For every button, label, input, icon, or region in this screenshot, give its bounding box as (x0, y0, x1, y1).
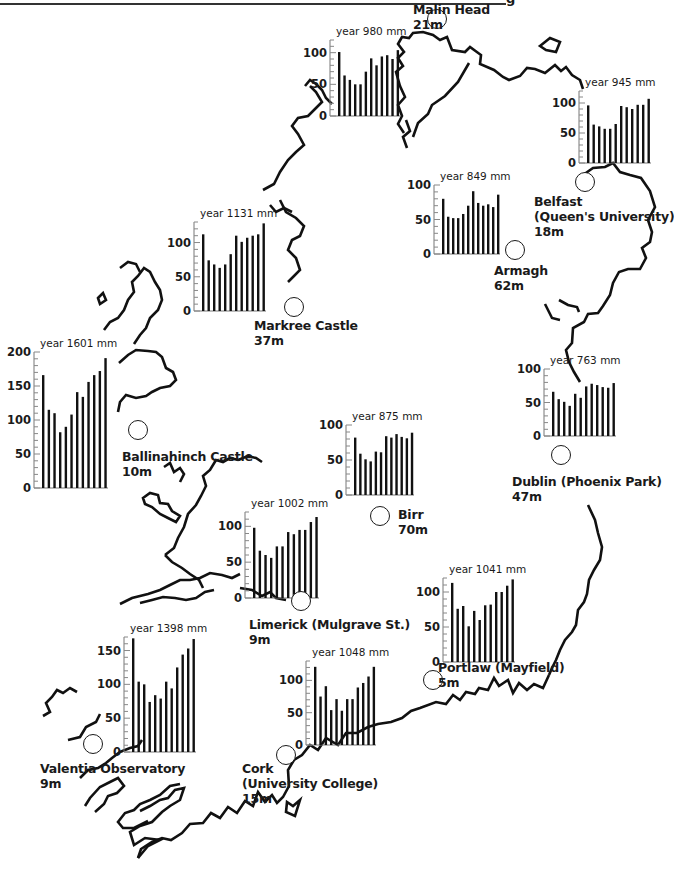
station-location-marker (284, 297, 304, 317)
station-label: Cork(University College)15m (242, 761, 378, 806)
coastline-segment (143, 493, 180, 522)
month-bar-O (401, 437, 403, 495)
station-elevation: 5m (438, 675, 564, 690)
rainfall-bar-chart: 050100year 945 mm (579, 91, 651, 163)
station-elevation: 18m (534, 224, 674, 239)
y-tick-label: 50 (311, 77, 327, 91)
month-bar-M (563, 402, 565, 436)
coastline-segment (403, 120, 410, 148)
month-bar-J (230, 254, 232, 311)
month-bar-D (104, 358, 106, 488)
month-bar-J (341, 711, 343, 745)
month-bar-A (149, 702, 151, 752)
station-label: Malin Head21m (413, 2, 490, 32)
month-bar-N (187, 649, 189, 753)
coastline-segment (118, 350, 176, 412)
coastline-segment (540, 38, 560, 52)
month-bar-J (615, 124, 617, 163)
station-elevation: 9m (40, 776, 185, 791)
month-bar-D (648, 99, 650, 163)
y-tick-label: 100 (552, 96, 576, 110)
month-bar-M (574, 394, 576, 436)
month-bar-J (253, 528, 255, 598)
station-label: Dublin (Phoenix Park)47m (512, 474, 662, 504)
month-bar-J (314, 667, 316, 745)
month-bar-J (365, 72, 367, 116)
month-bar-J (76, 392, 78, 488)
month-bar-O (602, 387, 604, 436)
y-tick-label: 100 (7, 413, 31, 427)
month-bar-N (492, 207, 494, 254)
coastline-segment (280, 200, 304, 282)
month-bar-S (298, 530, 300, 598)
month-bar-O (386, 55, 388, 116)
month-bar-F (138, 682, 140, 752)
station-label: Markree Castle37m (254, 318, 358, 348)
month-bar-S (596, 385, 598, 436)
rainfall-bar-chart: 050100year 1048 mm (306, 661, 376, 745)
month-bar-A (490, 605, 492, 662)
y-tick-label: 50 (105, 711, 121, 725)
month-bar-J (585, 386, 587, 436)
month-bar-A (219, 268, 221, 311)
month-bar-A (591, 384, 593, 436)
month-bar-D (411, 433, 413, 495)
station-elevation: 62m (494, 278, 548, 293)
y-tick-label: 50 (560, 126, 576, 140)
month-bar-J (451, 583, 453, 662)
coastline-segment (263, 86, 322, 190)
station-name: Valentia Observatory (40, 761, 185, 776)
month-bar-J (338, 52, 340, 116)
coastline-segment (559, 300, 579, 312)
month-bar-J (287, 532, 289, 598)
chart-title-annual-total: year 1041 mm (449, 563, 526, 575)
month-bar-O (501, 592, 503, 662)
rainfall-bar-chart: 050100year 980 mm (330, 40, 400, 116)
month-bar-J (484, 605, 486, 662)
month-bar-J (472, 191, 474, 254)
station-elevation: 70m (398, 522, 428, 537)
month-bar-A (351, 699, 353, 745)
month-bar-N (391, 59, 393, 116)
month-bar-A (477, 203, 479, 254)
station-name: (Queen's University) (534, 209, 674, 224)
month-bar-A (59, 432, 61, 488)
month-bar-D (193, 639, 195, 752)
month-bar-S (395, 434, 397, 495)
month-bar-J (552, 392, 554, 436)
month-bar-S (357, 687, 359, 745)
chart-title-annual-total: year 763 mm (550, 354, 621, 366)
month-bar-M (335, 699, 337, 745)
month-bar-N (642, 105, 644, 163)
month-bar-M (349, 80, 351, 116)
coastline-segment (413, 63, 469, 137)
rainfall-bar-chart: 050100year 1041 mm (443, 578, 515, 662)
station-label: Birr70m (398, 507, 428, 537)
month-bar-A (390, 438, 392, 495)
month-bar-A (330, 710, 332, 745)
month-bar-M (462, 214, 464, 254)
station-name: Ballinahinch Castle (122, 449, 253, 464)
month-bar-S (246, 238, 248, 311)
y-tick-label: 50 (15, 447, 31, 461)
month-bar-S (381, 56, 383, 116)
coastline-segment (545, 304, 560, 320)
month-bar-N (310, 522, 312, 598)
month-bar-N (406, 438, 408, 495)
month-bar-O (304, 530, 306, 598)
month-bar-D (397, 50, 399, 116)
month-bar-A (354, 84, 356, 116)
month-bar-J (165, 682, 167, 752)
month-bar-F (447, 217, 449, 254)
rainfall-bar-chart: 050100year 849 mm (434, 185, 500, 254)
rainfall-bar-chart: 050100150year 1398 mm (124, 637, 196, 752)
month-bar-J (587, 105, 589, 163)
coastline-segment (98, 293, 106, 304)
y-tick-label: 150 (97, 644, 121, 658)
station-name: Belfast (534, 194, 674, 209)
station-label: Portlaw (Mayfield)5m (438, 660, 564, 690)
month-bar-J (620, 106, 622, 163)
month-bar-A (241, 242, 243, 311)
month-bar-J (70, 415, 72, 488)
chart-title-annual-total: year 945 mm (585, 76, 656, 88)
